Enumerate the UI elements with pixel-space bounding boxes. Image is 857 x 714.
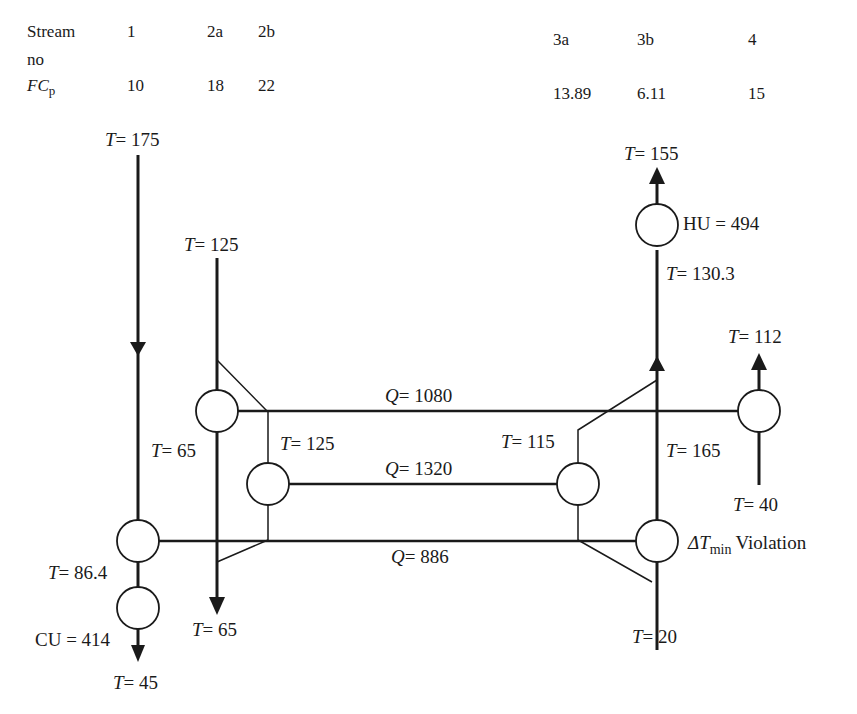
arrow-down-icon: [209, 597, 225, 615]
exchanger-1080-cold: [738, 390, 780, 432]
arrow-up-icon: [751, 353, 767, 370]
label-q1320: Q= 1320: [385, 458, 452, 479]
arrow-down-icon: [131, 645, 145, 662]
label-t20: T= 20: [632, 626, 677, 647]
label-cu: CU = 414: [35, 629, 111, 650]
label-t125-mid: T= 125: [280, 433, 335, 454]
label-t155: T= 155: [624, 143, 679, 164]
label-t86-4: T= 86.4: [48, 562, 108, 583]
label-dtmin-violation: ΔTminViolation: [687, 532, 807, 557]
label-hu: HU = 494: [683, 213, 760, 234]
label-t115: T= 115: [501, 431, 555, 452]
heat-exchanger-network: T= 175 T= 125 T= 65 T= 125 T= 86.4 CU = …: [0, 0, 857, 714]
label-q1080: Q= 1080: [385, 385, 452, 406]
exchanger-886-hot: [117, 520, 159, 562]
exchanger-1080-hot: [196, 390, 238, 432]
exchanger-1320-cold: [557, 463, 599, 505]
label-t125-top: T= 125: [184, 234, 239, 255]
label-t45: T= 45: [113, 672, 158, 693]
label-t65-bot: T= 65: [192, 619, 237, 640]
label-t165: T= 165: [666, 440, 721, 461]
label-t130-3: T= 130.3: [666, 263, 735, 284]
label-t112: T= 112: [728, 326, 782, 347]
label-t175: T= 175: [105, 129, 160, 150]
arrow-up-icon: [649, 167, 665, 184]
label-t40: T= 40: [733, 494, 778, 515]
exchanger-886-cold: [636, 520, 678, 562]
heater-hu: [636, 204, 678, 246]
arrow-up-icon: [649, 356, 665, 371]
label-t65-mid: T= 65: [151, 440, 196, 461]
arrow-down-icon: [130, 342, 146, 356]
label-q886: Q= 886: [391, 546, 449, 567]
cooler-cu: [117, 587, 159, 629]
exchanger-1320-hot: [247, 463, 289, 505]
